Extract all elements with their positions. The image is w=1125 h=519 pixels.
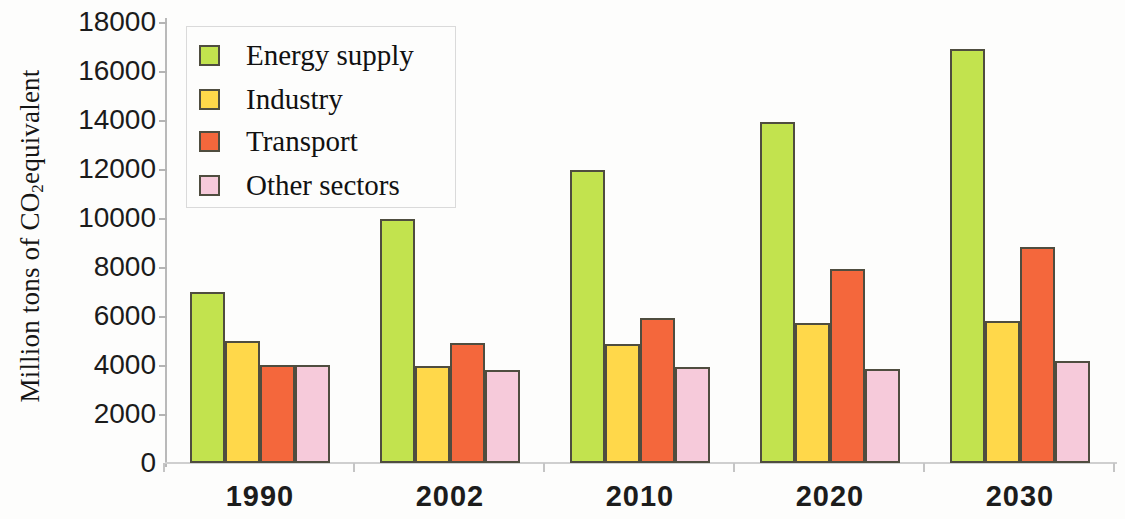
bar[interactable]: [380, 219, 415, 463]
y-axis-tick-label: 12000: [28, 155, 156, 183]
bar[interactable]: [760, 122, 795, 463]
legend-item-label: Transport: [246, 127, 358, 156]
bar[interactable]: [795, 323, 830, 463]
chart-figure: Million tons of CO2equivalent 1800016000…: [0, 0, 1125, 519]
bar[interactable]: [225, 341, 260, 464]
bar[interactable]: [415, 366, 450, 463]
x-axis-tick-label: 2030: [940, 480, 1100, 513]
y-axis-tick-label: 10000: [28, 204, 156, 232]
y-axis-tick-mark: [159, 169, 167, 171]
y-axis-tick-label: 16000: [28, 57, 156, 85]
y-axis-tick-label: 4000: [28, 351, 156, 379]
legend-item-label: Energy supply: [246, 41, 414, 70]
y-axis-tick-mark: [159, 22, 167, 24]
y-axis-tick-mark: [159, 267, 167, 269]
bar[interactable]: [865, 369, 900, 463]
y-axis-line: [165, 18, 167, 467]
legend-swatch-icon: [199, 131, 220, 152]
y-axis-tick-mark: [159, 414, 167, 416]
legend: Energy supplyIndustryTransportOther sect…: [186, 26, 456, 208]
legend-item[interactable]: Other sectors: [187, 163, 455, 207]
legend-item[interactable]: Industry: [187, 77, 455, 121]
y-axis-tick-mark: [159, 71, 167, 73]
x-axis-tick-label: 2002: [370, 480, 530, 513]
legend-swatch-icon: [199, 45, 220, 66]
bar[interactable]: [675, 367, 710, 463]
bar-group: [760, 22, 912, 463]
y-axis-tick-mark: [159, 218, 167, 220]
y-axis-tick-label: 8000: [28, 253, 156, 281]
legend-item-label: Other sectors: [246, 171, 400, 200]
bar[interactable]: [605, 344, 640, 463]
bar[interactable]: [260, 365, 295, 463]
legend-item[interactable]: Transport: [187, 119, 455, 163]
bar-group: [950, 22, 1102, 463]
x-axis-tick-mark: [923, 463, 925, 472]
x-axis-tick-mark: [1113, 463, 1115, 472]
bar[interactable]: [190, 292, 225, 464]
legend-item-label: Industry: [246, 85, 343, 114]
x-axis-tick-mark: [163, 463, 165, 472]
bar[interactable]: [830, 269, 865, 463]
y-axis-tick-mark: [159, 365, 167, 367]
bar[interactable]: [1055, 361, 1090, 463]
bar[interactable]: [950, 49, 985, 463]
x-axis-tick-label: 1990: [180, 480, 340, 513]
legend-swatch-icon: [199, 175, 220, 196]
y-axis-tick-mark: [159, 120, 167, 122]
bar[interactable]: [570, 170, 605, 463]
bar[interactable]: [295, 365, 330, 463]
bar[interactable]: [640, 318, 675, 463]
y-axis-tick-mark: [159, 316, 167, 318]
y-axis-tick-labels: 1800016000140001200010000800060004000200…: [0, 0, 156, 519]
bar-group: [570, 22, 722, 463]
y-axis-tick-label: 0: [28, 449, 156, 477]
y-axis-tick-label: 6000: [28, 302, 156, 330]
bar[interactable]: [1020, 247, 1055, 463]
x-axis-tick-label: 2010: [560, 480, 720, 513]
y-axis-tick-label: 18000: [28, 8, 156, 36]
x-axis-tick-label: 2020: [750, 480, 910, 513]
x-axis-tick-mark: [733, 463, 735, 472]
x-axis-tick-mark: [353, 463, 355, 472]
bar[interactable]: [985, 321, 1020, 463]
bar[interactable]: [450, 343, 485, 463]
legend-swatch-icon: [199, 89, 220, 110]
x-axis-tick-mark: [543, 463, 545, 472]
bar[interactable]: [485, 370, 520, 463]
y-axis-tick-label: 14000: [28, 106, 156, 134]
legend-item[interactable]: Energy supply: [187, 33, 455, 77]
y-axis-tick-label: 2000: [28, 400, 156, 428]
